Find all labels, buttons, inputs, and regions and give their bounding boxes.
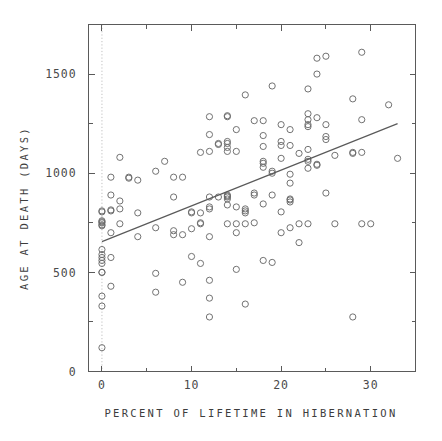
- y-tick-label: 0: [69, 365, 77, 379]
- data-point: [233, 230, 239, 236]
- data-point: [117, 221, 123, 227]
- data-point: [233, 204, 239, 210]
- data-point: [260, 201, 266, 207]
- data-point: [305, 221, 311, 227]
- data-point: [108, 174, 114, 180]
- data-point: [197, 210, 203, 216]
- data-point: [278, 155, 284, 161]
- data-point: [305, 86, 311, 92]
- x-tick-label: 20: [273, 378, 289, 392]
- y-tick-label: 1000: [45, 166, 76, 180]
- data-point: [206, 114, 212, 120]
- data-point: [108, 254, 114, 260]
- data-point: [233, 126, 239, 132]
- data-point: [197, 260, 203, 266]
- data-point: [359, 49, 365, 55]
- data-point: [251, 220, 257, 226]
- data-point: [260, 118, 266, 124]
- data-point: [260, 132, 266, 138]
- data-point: [179, 174, 185, 180]
- data-point: [233, 221, 239, 227]
- axes-frame-layer: [89, 25, 416, 372]
- trend-line: [102, 124, 398, 242]
- data-point: [305, 111, 311, 117]
- data-point: [242, 92, 248, 98]
- data-point: [323, 190, 329, 196]
- y-tick-label: 500: [53, 266, 76, 280]
- data-point: [188, 253, 194, 259]
- data-point: [135, 177, 141, 183]
- data-point: [108, 230, 114, 236]
- data-point: [314, 71, 320, 77]
- data-points-layer: [99, 49, 401, 351]
- data-point: [287, 180, 293, 186]
- data-point: [206, 234, 212, 240]
- data-point: [296, 240, 302, 246]
- data-point: [162, 158, 168, 164]
- data-point: [224, 202, 230, 208]
- data-point: [117, 206, 123, 212]
- data-point: [197, 149, 203, 155]
- data-point: [117, 154, 123, 160]
- data-point: [153, 225, 159, 231]
- data-point: [179, 232, 185, 238]
- data-point: [278, 122, 284, 128]
- data-point: [332, 221, 338, 227]
- data-point: [171, 194, 177, 200]
- x-tick-label: 0: [98, 378, 106, 392]
- data-point: [242, 221, 248, 227]
- axis-ticks-layer: [89, 25, 416, 372]
- data-point: [206, 295, 212, 301]
- data-point: [206, 148, 212, 154]
- data-point: [296, 150, 302, 156]
- x-axis-title: PERCENT OF LIFETIME IN HIBERNATION: [104, 407, 397, 419]
- data-point: [269, 259, 275, 265]
- data-point: [233, 148, 239, 154]
- data-point: [394, 155, 400, 161]
- data-point: [171, 228, 177, 234]
- data-point: [359, 221, 365, 227]
- data-point: [332, 152, 338, 158]
- data-point: [153, 289, 159, 295]
- data-point: [386, 102, 392, 108]
- data-point: [108, 192, 114, 198]
- data-point: [251, 118, 257, 124]
- data-point: [206, 277, 212, 283]
- data-point: [296, 221, 302, 227]
- scatter-plot-figure: 0102030050010001500 PERCENT OF LIFETIME …: [0, 0, 442, 441]
- data-point: [314, 115, 320, 121]
- data-point: [260, 257, 266, 263]
- data-point: [305, 146, 311, 152]
- data-point: [278, 138, 284, 144]
- data-point: [206, 131, 212, 137]
- data-point: [153, 270, 159, 276]
- data-point: [287, 225, 293, 231]
- data-point: [368, 221, 374, 227]
- data-point: [224, 221, 230, 227]
- data-point: [350, 314, 356, 320]
- data-point: [323, 53, 329, 59]
- data-point: [269, 83, 275, 89]
- data-point: [287, 126, 293, 132]
- data-point: [135, 210, 141, 216]
- x-tick-label: 30: [363, 378, 379, 392]
- data-point: [117, 198, 123, 204]
- data-point: [305, 165, 311, 171]
- data-point: [108, 283, 114, 289]
- data-point: [188, 226, 194, 232]
- data-point: [171, 174, 177, 180]
- data-point: [350, 96, 356, 102]
- plot-frame: [89, 25, 416, 372]
- data-point: [314, 55, 320, 61]
- data-point: [242, 301, 248, 307]
- data-point: [269, 192, 275, 198]
- data-point: [323, 122, 329, 128]
- data-point: [278, 209, 284, 215]
- data-point: [233, 266, 239, 272]
- data-point: [135, 234, 141, 240]
- data-point: [287, 142, 293, 148]
- data-point: [260, 143, 266, 149]
- data-point: [359, 117, 365, 123]
- data-point: [153, 168, 159, 174]
- y-tick-label: 1500: [45, 67, 76, 81]
